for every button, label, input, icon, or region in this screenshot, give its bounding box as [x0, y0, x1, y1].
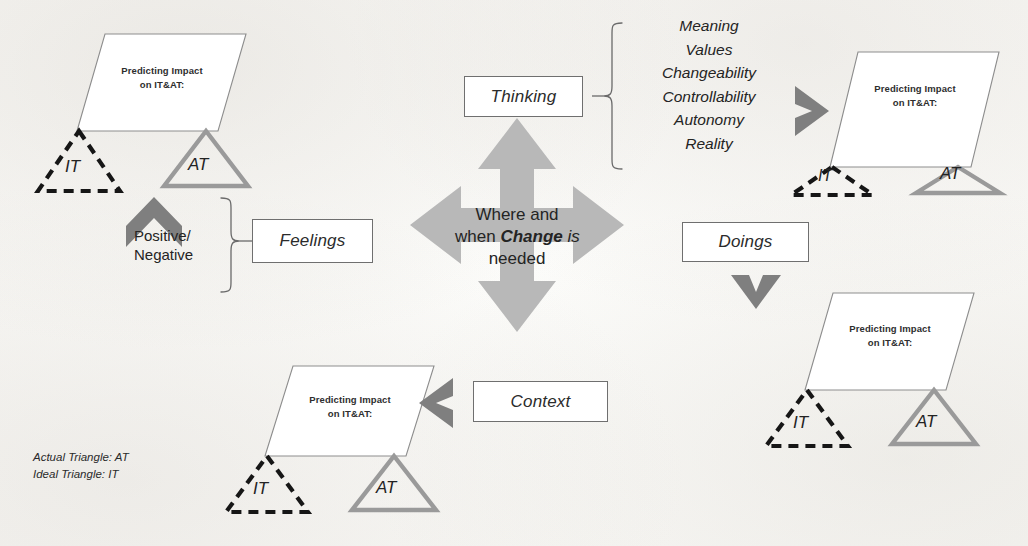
center-line-2: when Change is [455, 226, 579, 248]
branch-box-feelings[interactable]: Feelings [252, 219, 373, 263]
caption-line-1: Predicting Impact [826, 322, 954, 336]
actual-triangle-label-top-right: AT [940, 164, 960, 184]
thinking-attribute: Controllability [624, 85, 794, 109]
chevron-down-doings [731, 275, 781, 309]
prediction-caption-top-right: Predicting Impact on IT&AT: [851, 82, 979, 110]
ideal-label-text: IT [793, 413, 808, 432]
prediction-caption-bottom-center: Predicting Impact on IT&AT: [286, 393, 414, 421]
thinking-attribute: Autonomy [624, 108, 794, 132]
branch-box-context[interactable]: Context [473, 381, 608, 422]
legend-actual-triangle: Actual Triangle: AT [33, 449, 233, 466]
thinking-attribute: Changeability [624, 61, 794, 85]
prediction-caption-top-left: Predicting Impact on IT&AT: [98, 64, 226, 92]
thinking-attribute-list: Meaning Values Changeability Controllabi… [624, 14, 794, 155]
thinking-attribute: Reality [624, 132, 794, 156]
diagram-canvas: Where and when Change is needed Thinking… [0, 0, 1028, 546]
branch-label-doings: Doings [718, 232, 772, 252]
ideal-triangle-label-top-left: IT [65, 157, 80, 177]
ideal-label-text: IT [818, 167, 832, 184]
branch-label-thinking: Thinking [491, 87, 557, 107]
center-line-3: needed [455, 248, 579, 270]
ideal-triangle-label-bottom-right: IT [793, 413, 808, 433]
feelings-attribute-positive: Positive/ [134, 227, 234, 246]
actual-label-text: AT [940, 164, 960, 183]
center-change-keyword: Change [500, 227, 562, 246]
thinking-attribute: Values [624, 38, 794, 62]
center-change-text: Where and when Change is needed [455, 204, 579, 269]
center-line2-post: is [563, 227, 580, 246]
caption-line-2: on IT&AT: [286, 407, 414, 421]
branch-label-feelings: Feelings [280, 231, 346, 251]
prediction-caption-bottom-right: Predicting Impact on IT&AT: [826, 322, 954, 350]
feelings-attribute-list: Positive/ Negative [134, 227, 234, 265]
caption-line-2: on IT&AT: [826, 336, 954, 350]
legend-ideal-triangle: Ideal Triangle: IT [33, 466, 233, 483]
actual-label-text: AT [188, 155, 208, 174]
branch-box-thinking[interactable]: Thinking [464, 76, 583, 117]
ideal-label-text: IT [65, 157, 80, 176]
chevron-right-top [795, 86, 829, 136]
center-line-1: Where and [455, 204, 579, 226]
ideal-label-text: IT [253, 479, 268, 498]
actual-label-text: AT [916, 412, 936, 431]
actual-triangle-label-bottom-center: AT [376, 478, 396, 498]
caption-line-1: Predicting Impact [98, 64, 226, 78]
feelings-attribute-negative: Negative [134, 246, 234, 265]
caption-line-1: Predicting Impact [286, 393, 414, 407]
brace-thinking [604, 23, 622, 169]
caption-line-2: on IT&AT: [98, 78, 226, 92]
caption-line-1: Predicting Impact [851, 82, 979, 96]
center-line2-pre: when [455, 227, 500, 246]
ideal-triangle-label-top-right: IT [818, 167, 832, 185]
branch-box-doings[interactable]: Doings [682, 222, 809, 262]
actual-triangle-label-top-left: AT [188, 155, 208, 175]
actual-triangle-label-bottom-right: AT [916, 412, 936, 432]
thinking-attribute: Meaning [624, 14, 794, 38]
actual-label-text: AT [376, 478, 396, 497]
ideal-triangle-label-bottom-center: IT [253, 479, 268, 499]
caption-line-2: on IT&AT: [851, 96, 979, 110]
branch-label-context: Context [511, 392, 571, 412]
legend: Actual Triangle: AT Ideal Triangle: IT [33, 449, 233, 482]
